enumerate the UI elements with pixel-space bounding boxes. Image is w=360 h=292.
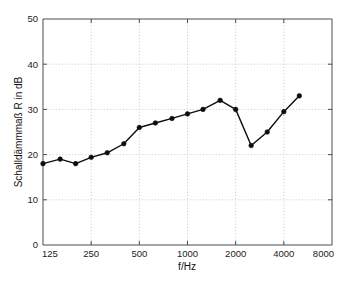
data-point-marker — [249, 143, 254, 148]
x-tick-label: 8000 — [313, 248, 334, 259]
y-tick-label: 20 — [27, 149, 38, 160]
data-point-marker — [89, 155, 94, 160]
data-point-marker — [201, 107, 206, 112]
x-tick-labels: 1252505001000200040008000 — [42, 248, 334, 259]
y-tick-label: 0 — [33, 239, 38, 250]
chart-figure: 1252505001000200040008000 01020304050 f/… — [0, 0, 360, 292]
x-tick-label: 250 — [83, 248, 99, 259]
y-tick-label: 10 — [27, 194, 38, 205]
data-point-marker — [105, 150, 110, 155]
y-axis-title: Schalldämmmaß R in dB — [13, 76, 24, 187]
data-point-marker — [218, 98, 223, 103]
data-point-marker — [41, 161, 46, 166]
data-point-marker — [170, 116, 175, 121]
data-point-marker — [137, 125, 142, 130]
y-tick-label: 50 — [27, 13, 38, 24]
data-point-marker — [233, 107, 238, 112]
data-point-marker — [153, 121, 158, 126]
x-tick-label: 500 — [131, 248, 147, 259]
x-tick-label: 4000 — [273, 248, 294, 259]
x-tick-label: 125 — [42, 248, 58, 259]
x-tick-label: 2000 — [225, 248, 246, 259]
data-point-marker — [282, 109, 287, 114]
data-point-marker — [185, 112, 190, 117]
y-tick-label: 30 — [27, 104, 38, 115]
data-point-marker — [265, 130, 270, 135]
y-tick-label: 40 — [27, 59, 38, 70]
data-point-marker — [73, 161, 78, 166]
sound-reduction-index-chart: 1252505001000200040008000 01020304050 f/… — [0, 0, 360, 292]
x-axis-title: f/Hz — [178, 261, 196, 272]
data-point-marker — [122, 141, 127, 146]
data-point-marker — [297, 94, 302, 99]
x-tick-label: 1000 — [177, 248, 198, 259]
data-point-marker — [58, 157, 63, 162]
